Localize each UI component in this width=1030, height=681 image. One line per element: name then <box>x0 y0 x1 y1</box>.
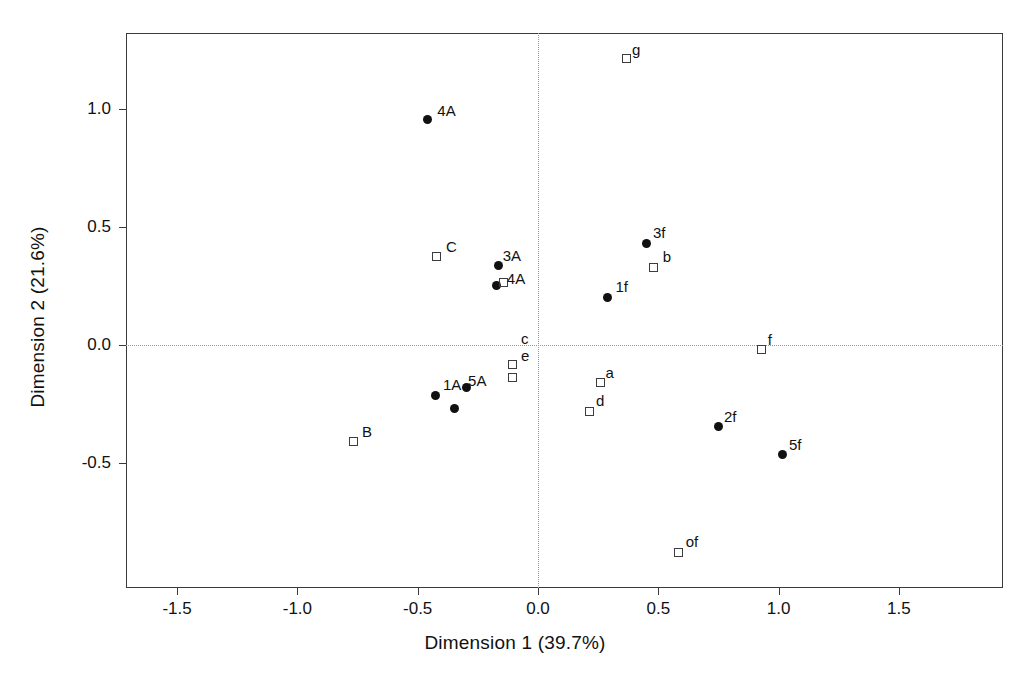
data-point-label: C <box>446 238 457 255</box>
reference-line-horizontal <box>126 345 1003 346</box>
data-point-open <box>349 437 358 446</box>
y-axis-tick-label: 1.0 <box>41 99 111 119</box>
data-point-filled <box>642 239 651 248</box>
x-axis-tick-label: -0.5 <box>383 599 453 619</box>
data-point-open <box>649 263 658 272</box>
y-axis-tick <box>119 463 126 464</box>
y-axis-tick-label: 0.5 <box>41 217 111 237</box>
data-point-open <box>757 345 766 354</box>
data-point-label: 3A <box>503 247 521 264</box>
data-point-label: e <box>521 347 529 364</box>
data-point-label: f <box>768 331 772 348</box>
data-point-label: 2f <box>724 408 737 425</box>
x-axis-tick <box>779 588 780 595</box>
x-axis-tick <box>658 588 659 595</box>
data-point-label: 1A <box>443 376 461 393</box>
reference-line-vertical <box>538 33 539 588</box>
x-axis-tick-label: 0.5 <box>623 599 693 619</box>
x-axis-tick-label: -1.5 <box>142 599 212 619</box>
plot-frame <box>126 33 1003 588</box>
data-point-label: 4A <box>507 270 525 287</box>
x-axis-title: Dimension 1 (39.7%) <box>0 632 1030 654</box>
data-point-open <box>508 373 517 382</box>
data-point-label: b <box>663 248 671 265</box>
x-axis-tick-label: -1.0 <box>262 599 332 619</box>
data-point-open <box>432 252 441 261</box>
data-point-label: 5f <box>789 436 802 453</box>
x-axis-tick-label: 1.0 <box>744 599 814 619</box>
data-point-open <box>585 407 594 416</box>
scatter-plot-figure: -1.5-1.0-0.50.00.51.01.51.00.50.0-0.54A3… <box>0 0 1030 681</box>
y-axis-tick <box>119 345 126 346</box>
data-point-label: g <box>632 41 640 58</box>
data-point-label: c <box>521 330 529 347</box>
data-point-filled <box>450 404 459 413</box>
data-point-open <box>508 360 517 369</box>
x-axis-tick <box>538 588 539 595</box>
x-axis-tick <box>899 588 900 595</box>
data-point-label: a <box>606 364 614 381</box>
data-point-filled <box>603 293 612 302</box>
data-point-label: 4A <box>437 102 455 119</box>
data-point-filled <box>423 115 432 124</box>
data-point-open <box>596 378 605 387</box>
y-axis-tick-label: -0.5 <box>41 453 111 473</box>
data-point-label: 3f <box>653 224 666 241</box>
data-point-label: 1f <box>616 278 629 295</box>
x-axis-tick <box>297 588 298 595</box>
y-axis-tick-label: 0.0 <box>41 335 111 355</box>
data-point-open <box>499 278 508 287</box>
data-point-label: 5A <box>468 372 486 389</box>
data-point-label: B <box>362 423 372 440</box>
x-axis-tick <box>418 588 419 595</box>
x-axis-tick-label: 0.0 <box>503 599 573 619</box>
data-point-open <box>674 548 683 557</box>
y-axis-title: Dimension 2 (21.6%) <box>27 17 49 617</box>
data-point-label: of <box>686 533 699 550</box>
y-axis-tick <box>119 227 126 228</box>
data-point-open <box>622 54 631 63</box>
x-axis-tick-label: 1.5 <box>864 599 934 619</box>
x-axis-tick <box>177 588 178 595</box>
y-axis-tick <box>119 109 126 110</box>
data-point-label: d <box>596 392 604 409</box>
